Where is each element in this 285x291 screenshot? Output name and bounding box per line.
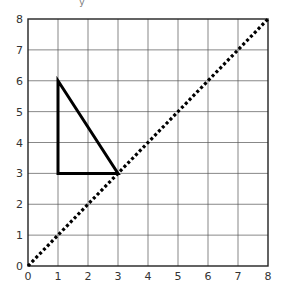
x-tick-label: 2 [85, 270, 92, 283]
y-tick-label: 3 [16, 167, 23, 180]
y-tick-label: 1 [16, 229, 23, 242]
x-tick-label: 3 [115, 270, 122, 283]
x-tick-label: 8 [265, 270, 272, 283]
y-tick-label: 8 [16, 13, 23, 26]
y-tick-label: 0 [16, 260, 23, 273]
y-axis-label: y [79, 0, 85, 7]
x-tick-label: 6 [205, 270, 212, 283]
y-tick-label: 2 [16, 198, 23, 211]
y-tick-label: 5 [16, 106, 23, 119]
x-tick-label: 1 [55, 270, 62, 283]
y-tick-label: 4 [16, 137, 23, 150]
x-tick-label: 0 [25, 270, 32, 283]
chart: 012345678012345678 y [0, 0, 285, 291]
x-tick-label: 5 [175, 270, 182, 283]
x-tick-label: 7 [235, 270, 242, 283]
y-tick-label: 6 [16, 75, 23, 88]
x-tick-label: 4 [145, 270, 152, 283]
y-tick-label: 7 [16, 44, 23, 57]
